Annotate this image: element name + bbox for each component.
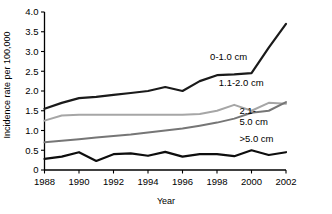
x-tick-label: 1990 — [68, 176, 89, 187]
x-axis: 19881990199219941996199820002002 — [34, 170, 297, 187]
series-label: >5.0 cm — [239, 133, 273, 144]
y-tick-label: 1.5 — [25, 105, 38, 116]
y-tick-label: 4.0 — [25, 6, 38, 17]
y-tick-label: 2.0 — [25, 85, 38, 96]
x-tick-label: 1988 — [34, 176, 55, 187]
y-tick-label: 2.5 — [25, 66, 38, 77]
y-tick-label: 0.5 — [25, 145, 38, 156]
series-label: 2.1- — [239, 105, 255, 116]
series-line — [45, 24, 287, 109]
x-tick-label: 2002 — [275, 176, 296, 187]
x-tick-label: 2000 — [241, 176, 262, 187]
series-label: 1.1-2.0 cm — [219, 77, 264, 88]
plot-area: 00.51.01.52.02.53.03.54.0 19881990199219… — [0, 0, 332, 214]
x-axis-title-text: Year — [157, 196, 175, 206]
series-line — [45, 150, 287, 161]
y-tick-label: 0 — [33, 164, 38, 175]
incidence-rate-line-chart: 00.51.01.52.02.53.03.54.0 19881990199219… — [0, 0, 332, 214]
x-tick-label: 1998 — [206, 176, 227, 187]
series-labels: 0-1.0 cm1.1-2.0 cm2.1-5.0 cm>5.0 cm — [210, 51, 273, 143]
y-axis: 00.51.01.52.02.53.03.54.0 — [25, 6, 44, 175]
series-label: 0-1.0 cm — [210, 51, 247, 62]
x-tick-label: 1992 — [103, 176, 124, 187]
y-axis-title: Incidence rate per 100,000 — [0, 0, 14, 170]
y-tick-label: 3.0 — [25, 46, 38, 57]
x-tick-label: 1996 — [172, 176, 193, 187]
x-axis-title: Year — [0, 196, 332, 206]
series-label: 5.0 cm — [239, 116, 268, 127]
y-tick-label: 3.5 — [25, 26, 38, 37]
y-tick-label: 1.0 — [25, 125, 38, 136]
x-tick-label: 1994 — [137, 176, 158, 187]
y-axis-title-text: Incidence rate per 100,000 — [2, 31, 12, 138]
